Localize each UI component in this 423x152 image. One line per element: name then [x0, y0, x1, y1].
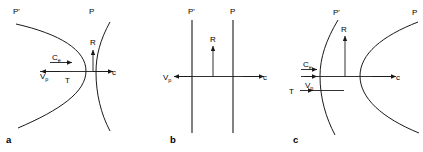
panel-c-label-p: P — [412, 8, 417, 17]
panel-a-label-p: P — [89, 7, 94, 16]
panel-c-left-surface — [320, 20, 338, 135]
figure-canvas: P' P Ce Vp T R c a P' P Vp R c b — [0, 0, 423, 152]
panel-b: P' P Vp R c b — [163, 7, 267, 145]
panel-a-label-celerity: c — [112, 68, 116, 77]
panel-c-right-surface — [360, 22, 419, 133]
panel-c-label-retreat: R — [341, 25, 347, 34]
panel-b-label-retreat: R — [210, 35, 216, 44]
panel-a-label-erosion: Ce — [52, 53, 61, 63]
panel-c-label-velocity: Vp — [305, 81, 313, 91]
panel-c-label-thickness: T — [289, 87, 294, 96]
panel-b-label-velocity: Vp — [163, 73, 171, 83]
panel-c-label-p-prime: P' — [333, 8, 340, 17]
panel-b-label-p: P — [230, 7, 235, 16]
panel-c-letter: c — [293, 134, 298, 145]
panel-b-label-p-prime: P' — [188, 7, 195, 16]
panel-a-label-velocity: Vp — [40, 72, 48, 82]
panel-b-letter: b — [170, 134, 176, 145]
panel-a-left-surface — [16, 24, 86, 128]
panel-c-label-celerity: c — [396, 73, 400, 82]
panel-c: P' P Ce Vp T R c c — [289, 8, 419, 145]
three-panel-diagram: P' P Ce Vp T R c a P' P Vp R c b — [0, 0, 423, 152]
panel-a-label-thickness: T — [65, 76, 70, 85]
panel-a-label-p-prime: P' — [13, 7, 20, 16]
panel-a-right-surface — [96, 22, 110, 131]
panel-b-label-celerity: c — [263, 73, 267, 82]
panel-a: P' P Ce Vp T R c a — [6, 7, 116, 145]
panel-a-letter: a — [6, 134, 12, 145]
panel-c-label-erosion: Ce — [303, 60, 312, 70]
panel-a-label-retreat: R — [90, 38, 96, 47]
